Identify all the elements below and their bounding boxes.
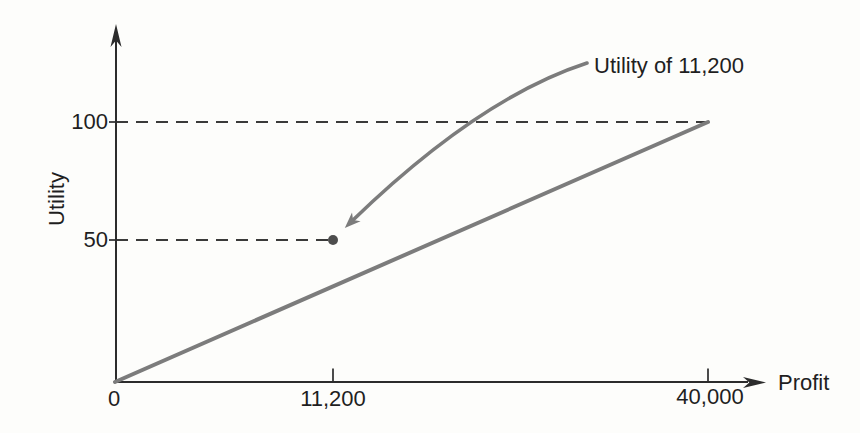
x-tick-label-11200: 11,200 <box>293 388 373 410</box>
x-axis-title: Profit <box>778 372 829 394</box>
y-tick-label-100: 100 <box>58 111 108 133</box>
annotation-leader-line <box>352 63 587 221</box>
annotation-label: Utility of 11,200 <box>594 55 744 77</box>
utility-function-figure: Utility 100 50 0 11,200 40,000 Profit Ut… <box>0 0 860 433</box>
marked-point-dot <box>328 235 338 245</box>
x-tick-label-40000: 40,000 <box>668 386 752 408</box>
y-tick-label-50: 50 <box>58 229 108 251</box>
x-tick-label-0: 0 <box>103 388 125 410</box>
linear-utility-line <box>115 122 708 382</box>
